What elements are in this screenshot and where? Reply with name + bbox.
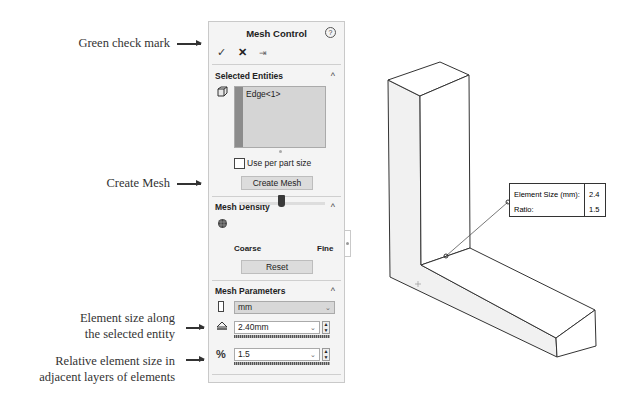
tooltip-key: Element Size (mm): (514, 190, 580, 199)
divider (584, 184, 585, 216)
tooltip-value: 2.4 (589, 190, 599, 199)
mesh-control-tooltip: Element Size (mm): 2.4 Ratio: 1.5 (509, 183, 606, 217)
tooltip-value: 1.5 (589, 205, 599, 214)
tooltip-key: Ratio: (514, 205, 534, 214)
